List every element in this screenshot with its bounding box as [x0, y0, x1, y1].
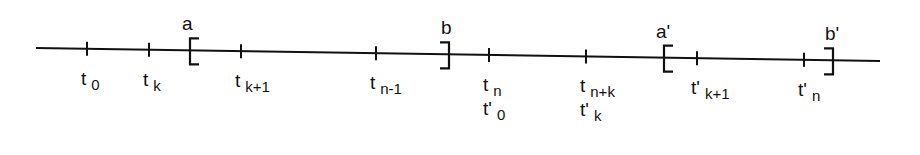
labels-layer: t0tktk+1tn-1tnt'0tn+kt'kt'k+1t'naba'b' — [81, 13, 839, 124]
endpoint-label-bp: b' — [825, 23, 839, 44]
tick-label-tk-subscript: k — [153, 77, 161, 94]
tick-label2-tnk-main: t' — [580, 99, 589, 120]
endpoint-label-b: b — [441, 17, 452, 38]
bracket-b — [440, 42, 449, 68]
tick-label-tpn-main: t' — [798, 79, 807, 100]
tick-label-tn1: tn-1 — [370, 72, 402, 97]
tick-label2-tnk-subscript: k — [594, 107, 602, 124]
tick-label-tpk1-subscript: k+1 — [705, 85, 730, 102]
tick-label-tpk1: t'k+1 — [691, 77, 730, 102]
tick-label-tnk-subscript: n+k — [590, 83, 615, 100]
tick-label-tnk: tn+k — [580, 75, 615, 100]
tick-label-t0: t0 — [81, 68, 100, 93]
tick-label-tk: tk — [143, 69, 161, 94]
tick-label2-tn-main: t' — [483, 98, 492, 119]
tick-label-t0-subscript: 0 — [91, 76, 99, 93]
tick-label-tn-subscript: n — [493, 82, 501, 99]
tick-label-tn1-subscript: n-1 — [380, 80, 402, 97]
tick-label-tk1: tk+1 — [235, 70, 270, 95]
tick-label-tn1-main: t — [370, 72, 376, 93]
tick-label-tk-main: t — [143, 69, 149, 90]
endpoint-label-ap: a' — [656, 21, 670, 42]
tick-label-tpn: t'n — [798, 79, 820, 104]
tick-label-tk1-subscript: k+1 — [245, 78, 270, 95]
tick-label-tn-main: t — [483, 74, 489, 95]
bracket-bp — [824, 48, 833, 74]
tick-label2-tn-subscript: 0 — [497, 106, 505, 123]
tick-label-tnk-main: t — [580, 75, 586, 96]
tick-label2-tnk: t'k — [580, 99, 602, 124]
tick-label2-tn: t'0 — [483, 98, 505, 123]
tick-label-tk1-main: t — [235, 70, 241, 91]
endpoint-label-a: a — [182, 13, 193, 34]
tick-label-t0-main: t — [81, 68, 87, 89]
tick-label-tn: tn — [483, 74, 502, 99]
tick-label-tpk1-main: t' — [691, 77, 700, 98]
tick-label-tpn-subscript: n — [812, 87, 820, 104]
number-line — [36, 48, 880, 61]
partition-diagram: t0tktk+1tn-1tnt'0tn+kt'kt'k+1t'naba'b' — [0, 0, 920, 155]
